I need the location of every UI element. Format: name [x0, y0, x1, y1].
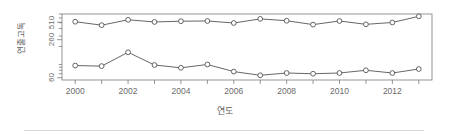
data-point [152, 63, 157, 68]
data-point [205, 19, 210, 24]
y-axis-title: 연출고독 [14, 10, 28, 66]
data-point [73, 19, 78, 24]
data-point [364, 22, 369, 27]
x-tick-label: 2000 [58, 86, 92, 96]
data-point [390, 20, 395, 25]
data-point [231, 69, 236, 74]
data-point [311, 22, 316, 27]
plot-canvas [0, 0, 449, 138]
data-point [126, 50, 131, 55]
data-point [152, 20, 157, 25]
data-point [364, 68, 369, 73]
data-point [231, 21, 236, 26]
data-point [179, 65, 184, 70]
data-point [99, 23, 104, 28]
y-tick-label: 510 [46, 9, 57, 35]
x-tick-label: 2002 [111, 86, 145, 96]
data-point [284, 71, 289, 76]
data-point [416, 67, 421, 72]
x-tick-label: 2006 [217, 86, 251, 96]
data-point [99, 64, 104, 69]
x-tick-label: 2012 [375, 86, 409, 96]
chart-figure: 연출고독 60260510 20002002200420062008201020… [0, 0, 449, 138]
x-tick-label: 2008 [270, 86, 304, 96]
data-point [126, 17, 131, 22]
x-axis-title: 연도 [0, 104, 449, 117]
data-point [73, 63, 78, 68]
data-point [258, 73, 263, 78]
footer-divider [24, 130, 424, 131]
data-point [337, 19, 342, 24]
data-point [416, 14, 421, 19]
data-point [284, 18, 289, 23]
data-point [337, 71, 342, 76]
data-point [258, 16, 263, 21]
y-tick-label: 60 [46, 65, 57, 91]
x-tick-label: 2010 [323, 86, 357, 96]
series-group [73, 14, 421, 78]
data-point [179, 19, 184, 24]
data-point [311, 71, 316, 76]
x-tick-label: 2004 [164, 86, 198, 96]
data-point [390, 71, 395, 76]
data-point [205, 62, 210, 67]
